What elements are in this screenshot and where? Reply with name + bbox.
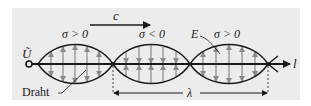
- wavelength-label: λ: [186, 86, 192, 100]
- transmission-line-diagram: c σ > 0 σ < 0 σ > 0 E Ũ Draht l λ: [0, 0, 311, 106]
- charge-label-1: σ > 0: [62, 27, 88, 41]
- source-terminal: [26, 61, 32, 67]
- field-label: E: [190, 27, 199, 41]
- axis-label: l: [293, 56, 297, 71]
- voltage-label: Ũ: [22, 46, 33, 61]
- wire-label: Draht: [22, 85, 50, 99]
- node: [266, 62, 270, 66]
- charge-label-2: σ < 0: [139, 27, 165, 41]
- node: [111, 62, 115, 66]
- charge-label-3: σ > 0: [214, 27, 240, 41]
- velocity-label: c: [113, 8, 119, 23]
